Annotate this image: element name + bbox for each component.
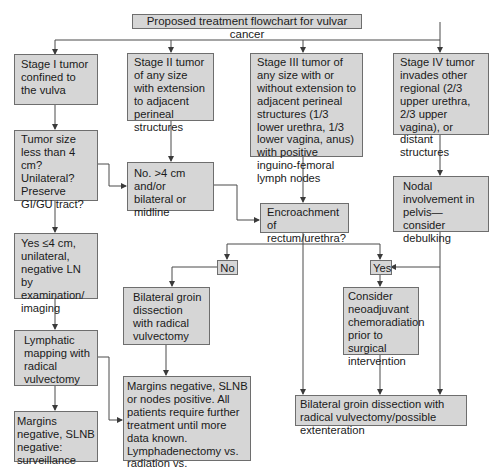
stage-4-box: Stage IV tumor invades other regional (2… bbox=[393, 53, 489, 135]
bilateral-groin-dissection-box: Bilateral groin dissection with radical … bbox=[123, 287, 210, 345]
no-greater-4cm-box: No. >4 cm and/or bilateral or midline bbox=[127, 162, 214, 211]
yes-branch-label: Yes bbox=[370, 260, 392, 275]
nodal-involvement-box: Nodal involvement in pelvis—consider deb… bbox=[393, 176, 489, 232]
no-branch-label: No bbox=[217, 260, 238, 275]
lymphatic-mapping-box: Lymphatic mapping with radical vulvectom… bbox=[14, 330, 98, 386]
stage-2-box: Stage II tumor of any size with extensio… bbox=[127, 53, 214, 121]
consider-neoadjuvant-box: Consider neoadjuvant chemoradiation prio… bbox=[343, 287, 419, 355]
encroachment-question-box: Encroachment of rectum/urethra? bbox=[260, 203, 349, 233]
margins-positive-box: Margins negative, SLNB or nodes positive… bbox=[123, 376, 251, 461]
flowchart-title: Proposed treatment flowchart for vulvar … bbox=[132, 14, 362, 29]
margins-negative-surveillance-box: Margins negative, SLNB negative: surveil… bbox=[14, 411, 98, 462]
bilateral-groin-exenteration-box: Bilateral groin dissection with radical … bbox=[295, 395, 467, 426]
yes-le-4cm-box: Yes ≤4 cm, unilateral, negative LN by ex… bbox=[14, 233, 98, 299]
stage-1-box: Stage I tumor confined to the vulva bbox=[14, 54, 98, 105]
stage-3-box: Stage III tumor of any size with or with… bbox=[250, 53, 363, 157]
tumor-size-question-box: Tumor size less than 4 cm? Unilateral? P… bbox=[14, 130, 98, 201]
